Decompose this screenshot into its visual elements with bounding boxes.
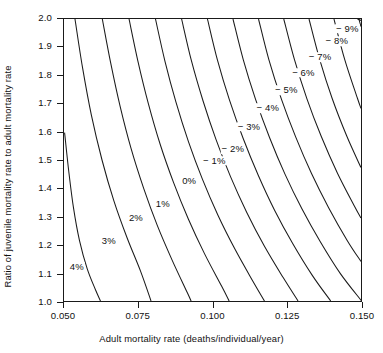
x-tick-label: 0.150	[332, 311, 383, 321]
contour-line	[284, 19, 361, 218]
x-axis-title: Adult mortality rate (deaths/individual/…	[0, 333, 383, 344]
x-tick-label: 0.125	[257, 311, 317, 321]
x-tick-mark	[362, 302, 363, 308]
contour-line	[334, 19, 361, 108]
x-tick-mark	[287, 302, 288, 308]
contour-plot-figure: Ratio of juvenile mortality rate to adul…	[0, 0, 383, 353]
contour-line	[357, 19, 361, 20]
contour-line	[259, 19, 361, 262]
contour-line	[75, 19, 151, 301]
contour-line	[129, 19, 229, 301]
x-tick-mark	[63, 302, 64, 308]
contour-line	[102, 19, 191, 301]
x-tick-mark	[138, 302, 139, 308]
contour-line	[65, 133, 101, 301]
x-tick-mark	[213, 302, 214, 308]
x-tick-label: 0.075	[108, 311, 168, 321]
x-tick-label: 0.100	[183, 311, 243, 321]
contour-lines	[64, 19, 361, 301]
plot-area	[63, 18, 362, 302]
y-tick-mark	[57, 302, 63, 303]
x-tick-label: 0.050	[33, 311, 93, 321]
contour-line	[309, 19, 361, 168]
y-axis-title: Ratio of juvenile mortality rate to adul…	[0, 0, 16, 353]
